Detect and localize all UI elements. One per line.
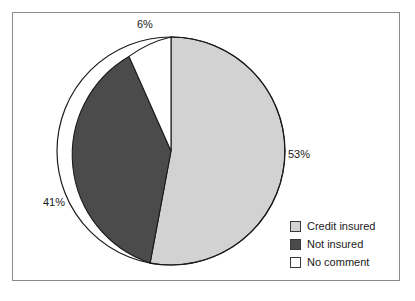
legend-swatch-no-comment (290, 257, 301, 268)
legend-label-credit-insured: Credit insured (307, 221, 375, 232)
pie-chart-figure: 6% 53% 41% Credit insured Not insured No… (0, 0, 415, 301)
legend-swatch-credit-insured (290, 221, 301, 232)
legend-item-credit-insured: Credit insured (290, 218, 394, 234)
legend-label-no-comment: No comment (307, 257, 369, 268)
pie-label-credit-insured: 53% (288, 148, 310, 160)
legend-swatch-not-insured (290, 239, 301, 250)
legend-label-not-insured: Not insured (307, 239, 363, 250)
legend: Credit insured Not insured No comment (290, 218, 394, 272)
legend-item-no-comment: No comment (290, 254, 394, 270)
legend-item-not-insured: Not insured (290, 236, 394, 252)
pie-label-not-insured: 41% (43, 196, 65, 208)
pie-label-no-comment: 6% (137, 18, 153, 30)
